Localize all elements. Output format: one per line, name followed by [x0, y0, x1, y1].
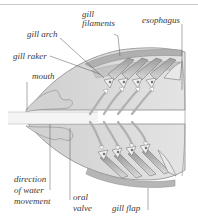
label-oral-valve: oral valve — [73, 192, 92, 214]
label-gill-filaments: gill filaments — [82, 10, 115, 28]
water-stream — [8, 112, 98, 124]
label-text: direction — [14, 174, 50, 185]
label-esophagus: esophagus — [142, 16, 180, 25]
label-gill-raker: gill raker — [13, 52, 47, 61]
label-text: filaments — [82, 19, 115, 28]
label-text: oral — [73, 192, 92, 203]
label-text: movement — [14, 196, 50, 207]
label-direction-of-water-movement: direction of water movement — [14, 174, 50, 207]
label-gill-flap: gill flap — [112, 204, 140, 213]
label-mouth: mouth — [32, 72, 55, 81]
label-text: of water — [14, 185, 50, 196]
label-gill-arch: gill arch — [27, 30, 57, 39]
fish-gill-diagram: gill filaments esophagus gill arch gill … — [0, 0, 198, 220]
label-text: valve — [73, 203, 92, 214]
